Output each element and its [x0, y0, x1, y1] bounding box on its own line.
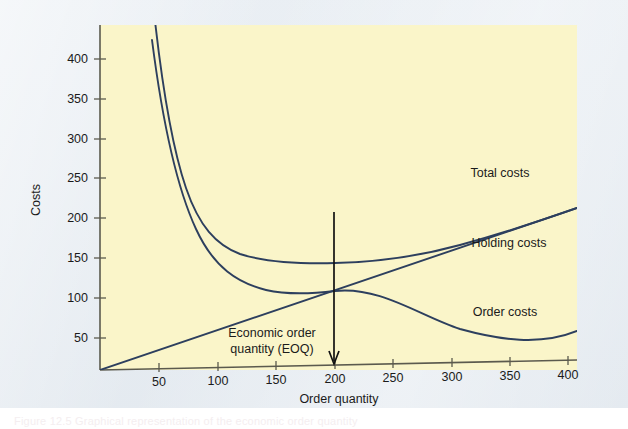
- figure-root: 400 350 300 250 200 150 100 50 Costs 50 …: [0, 0, 628, 429]
- x-tick-label: 350: [500, 369, 521, 383]
- eoq-label-line2: quantity (EOQ): [230, 342, 313, 356]
- series-label-holding-costs: Holding costs: [471, 236, 546, 250]
- y-tick-label: 300: [67, 132, 88, 146]
- y-tick-label: 250: [67, 171, 88, 185]
- x-tick-label: 300: [442, 370, 463, 384]
- eoq-label-line1: Economic order: [228, 326, 316, 340]
- y-axis-title: Costs: [29, 184, 43, 216]
- x-tick-label: 250: [383, 371, 404, 385]
- y-tick-label: 400: [67, 52, 88, 66]
- y-tick-label: 150: [67, 251, 88, 265]
- y-tick-label: 100: [67, 291, 88, 305]
- series-label-total-costs: Total costs: [470, 166, 529, 180]
- x-tick-label: 200: [325, 372, 346, 386]
- figure-caption: Figure 12.5 Graphical representation of …: [14, 415, 358, 427]
- x-axis-title: Order quantity: [299, 392, 379, 406]
- eoq-chart: 400 350 300 250 200 150 100 50 Costs 50 …: [0, 0, 628, 429]
- figure-caption-strip: Figure 12.5 Graphical representation of …: [0, 408, 628, 429]
- y-tick-label: 200: [67, 211, 88, 225]
- x-tick-label: 150: [266, 373, 287, 387]
- y-tick-label: 350: [67, 92, 88, 106]
- x-tick-label: 100: [208, 374, 229, 388]
- series-label-order-costs: Order costs: [473, 305, 538, 319]
- x-tick-label: 400: [558, 368, 579, 382]
- y-tick-label: 50: [74, 331, 88, 345]
- y-axis-tick-labels: 400 350 300 250 200 150 100 50: [67, 52, 88, 345]
- x-tick-label: 50: [152, 375, 166, 389]
- x-axis-tick-labels: 50 100 150 200 250 300 350 400: [152, 368, 578, 389]
